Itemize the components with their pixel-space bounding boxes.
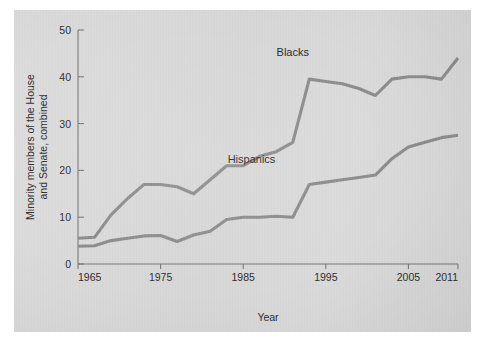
y-tick-label: 0	[65, 258, 71, 270]
x-tick-group: 196519751985199520052011	[78, 264, 458, 283]
y-tick-group: 01020304050	[59, 24, 84, 270]
x-tick-label: 1965	[78, 271, 102, 283]
x-tick-label: 2011	[435, 271, 458, 283]
y-tick-label: 50	[59, 24, 71, 36]
y-tick-label: 30	[59, 118, 71, 130]
line-chart: 01020304050 196519751985199520052011 Bla…	[14, 10, 471, 332]
x-tick-label: 1985	[232, 271, 256, 283]
y-tick-label: 40	[59, 71, 71, 83]
y-axis-title-line-1: Minority members of the House	[24, 74, 36, 220]
y-tick-label: 10	[59, 211, 71, 223]
y-axis-title-line-2: and Senate, combined	[37, 94, 49, 199]
series-line-blacks	[78, 58, 458, 238]
y-tick-label: 20	[59, 164, 71, 176]
series-label-hispanics: Hispanics	[228, 153, 276, 165]
chart-figure: 01020304050 196519751985199520052011 Bla…	[14, 10, 471, 332]
x-axis-title: Year	[257, 311, 279, 323]
x-tick-label: 1975	[149, 271, 173, 283]
x-tick-label: 2005	[397, 271, 421, 283]
series-label-blacks: Blacks	[277, 46, 310, 58]
x-tick-label: 1995	[314, 271, 338, 283]
